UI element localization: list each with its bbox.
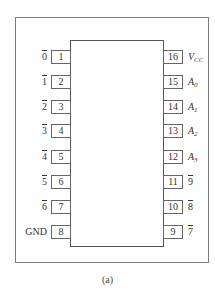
pin-3-label: 2 <box>42 100 47 114</box>
pin-11-label: 9 <box>188 175 193 189</box>
pin-10-label: 8 <box>188 200 193 214</box>
pin-4: 4 <box>51 124 71 138</box>
pin-6-label: 5 <box>42 175 47 189</box>
pin-16: 16 <box>163 50 183 64</box>
pin-14: 14 <box>163 100 183 114</box>
pin-2: 2 <box>51 75 71 89</box>
pin-12: 12 <box>163 150 183 164</box>
pin-9-label: 7 <box>188 225 193 239</box>
pin-2-label: 1 <box>42 75 47 89</box>
pin-1: 1 <box>51 50 71 64</box>
pin-5: 5 <box>51 150 71 164</box>
figure-caption: (a) <box>0 274 215 285</box>
pin-5-label: 4 <box>42 150 47 164</box>
pin-4-label: 3 <box>42 124 47 138</box>
pin-9: 9 <box>163 225 183 239</box>
pin-13-label: A2 <box>188 124 198 141</box>
pin-15-label: A0 <box>188 75 198 92</box>
pin-7: 7 <box>51 200 71 214</box>
pin-15: 15 <box>163 75 183 89</box>
pin-3: 3 <box>51 100 71 114</box>
pin-1-label: 0 <box>42 50 47 64</box>
pin-14-label: A1 <box>188 100 198 117</box>
pin-12-label: A3 <box>188 150 198 167</box>
pin-6: 6 <box>51 175 71 189</box>
pin-13: 13 <box>163 124 183 138</box>
pin-16-label: VCC <box>188 50 203 67</box>
pin-10: 10 <box>163 200 183 214</box>
ic-chip-body <box>70 40 164 247</box>
pin-11: 11 <box>163 175 183 189</box>
pin-7-label: 6 <box>42 200 47 214</box>
pin-8: 8 <box>51 225 71 239</box>
pin-8-label: GND <box>25 225 47 239</box>
